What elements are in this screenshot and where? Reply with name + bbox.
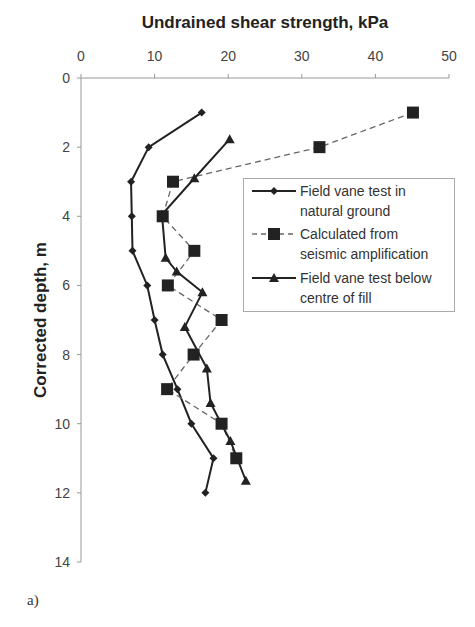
legend: Field vane test innatural groundCalculat… — [244, 179, 455, 312]
triangle-marker — [180, 322, 190, 331]
x-tick-label: 10 — [147, 48, 163, 64]
y-tick-label: 12 — [54, 485, 70, 501]
square-marker — [161, 383, 173, 395]
triangle-marker — [225, 436, 235, 445]
legend-label: Field vane test below — [300, 270, 432, 286]
square-marker — [167, 176, 179, 188]
diamond-marker — [173, 385, 181, 393]
y-tick-label: 10 — [54, 416, 70, 432]
square-marker — [268, 228, 280, 240]
legend-label: centre of fill — [300, 290, 372, 306]
diamond-marker — [201, 489, 209, 497]
square-marker — [407, 107, 419, 119]
legend-label: Field vane test in — [300, 183, 406, 199]
y-tick-label: 14 — [54, 554, 70, 570]
x-tick-label: 40 — [368, 48, 384, 64]
y-tick-label: 2 — [62, 139, 70, 155]
x-tick-label: 50 — [441, 48, 457, 64]
triangle-marker — [225, 134, 235, 143]
y-tick-label: 6 — [62, 277, 70, 293]
legend-label: Calculated from — [300, 226, 398, 242]
diamond-marker — [151, 316, 159, 324]
y-axis-title: Corrected depth, m — [31, 242, 50, 398]
diamond-marker — [128, 212, 136, 220]
square-marker — [188, 245, 200, 257]
diamond-marker — [143, 281, 151, 289]
legend-label: seismic amplification — [300, 246, 428, 262]
shear-strength-depth-chart: Undrained shear strength, kPa 0102030405… — [0, 0, 475, 590]
x-tick-label: 0 — [77, 48, 85, 64]
diamond-marker — [127, 178, 135, 186]
square-marker — [216, 314, 228, 326]
y-tick-label: 8 — [62, 347, 70, 363]
x-tick-label: 30 — [294, 48, 310, 64]
square-marker — [313, 141, 325, 153]
diamond-marker — [159, 351, 167, 359]
triangle-marker — [202, 363, 212, 372]
triangle-marker — [161, 253, 171, 262]
triangle-marker — [241, 476, 251, 485]
square-marker — [162, 279, 174, 291]
diamond-marker — [129, 247, 137, 255]
y-tick-label: 0 — [62, 70, 70, 86]
panel-label: a) — [27, 592, 39, 609]
chart-title: Undrained shear strength, kPa — [142, 13, 389, 32]
y-axis: 02468101214 — [54, 70, 81, 570]
y-tick-label: 4 — [62, 208, 70, 224]
legend-label: natural ground — [300, 203, 390, 219]
triangle-marker — [206, 398, 216, 407]
x-axis: 01020304050 — [77, 48, 457, 78]
x-tick-label: 20 — [220, 48, 236, 64]
